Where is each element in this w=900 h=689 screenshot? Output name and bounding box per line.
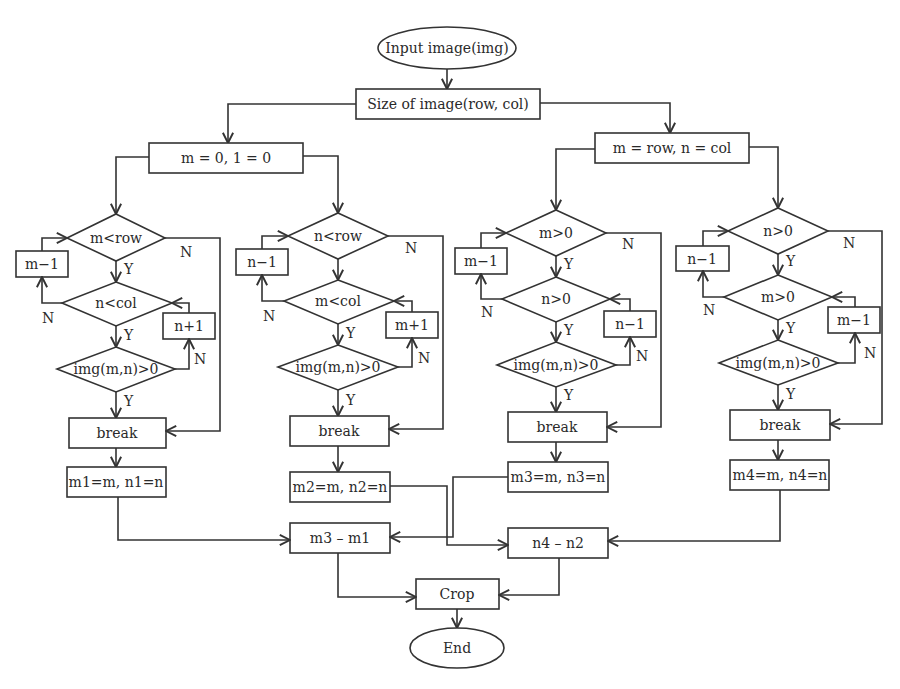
b2-cond3: img(m,n)>0: [295, 360, 380, 374]
b4-break: break: [760, 418, 801, 432]
no-marker: N: [418, 351, 430, 365]
b4-dec1: n−1: [687, 252, 717, 266]
b3-cond1: m>0: [539, 226, 573, 240]
b1-dec1: m−1: [25, 257, 59, 271]
no-marker: N: [843, 236, 855, 250]
crop-label: Crop: [440, 587, 475, 601]
no-marker: N: [636, 349, 648, 363]
no-marker: N: [622, 237, 634, 251]
b4-result: m4=m, n4=n: [733, 468, 828, 482]
b2-cond1: n<row: [314, 229, 362, 243]
yes-marker: Y: [786, 254, 795, 268]
init-left-label: m = 0, 1 = 0: [181, 151, 271, 165]
yes-marker: Y: [124, 394, 133, 408]
yes-marker: Y: [786, 387, 795, 401]
b4-cond3: img(m,n)>0: [735, 356, 820, 370]
b3-result: m3=m, n3=n: [511, 470, 606, 484]
init-right-label: m = row, n = col: [613, 141, 732, 155]
yes-marker: Y: [124, 262, 133, 276]
yes-marker: Y: [124, 328, 133, 342]
yes-marker: Y: [346, 393, 355, 407]
no-marker: N: [194, 352, 206, 366]
no-marker: N: [180, 245, 192, 259]
start-label: Input image(img): [385, 41, 509, 55]
b1-inc2: n+1: [174, 319, 204, 333]
yes-marker: Y: [786, 321, 795, 335]
b1-cond1: m<row: [90, 231, 142, 245]
b2-inc2: m+1: [395, 318, 429, 332]
b4-cond2: m>0: [761, 290, 795, 304]
no-marker: N: [864, 346, 876, 360]
b2-break: break: [319, 424, 360, 438]
size-label: Size of image(row, col): [367, 97, 529, 111]
b1-result: m1=m, n1=n: [69, 475, 164, 489]
b1-cond3: img(m,n)>0: [73, 362, 158, 376]
yes-marker: Y: [346, 326, 355, 340]
no-marker: N: [405, 241, 417, 255]
b2-dec1: n−1: [247, 255, 277, 269]
no-marker: N: [703, 303, 715, 317]
b1-break: break: [97, 426, 138, 440]
no-marker: N: [42, 311, 54, 325]
no-marker: N: [263, 309, 275, 323]
b3-break: break: [537, 420, 578, 434]
b3-dec1: m−1: [464, 254, 498, 268]
diff-m-label: m3 – m1: [310, 531, 370, 545]
yes-marker: Y: [564, 257, 573, 271]
b2-cond2: m<col: [315, 294, 361, 308]
no-marker: N: [481, 305, 493, 319]
b3-cond2: n>0: [541, 292, 571, 306]
yes-marker: Y: [564, 323, 573, 337]
diff-n-label: n4 – n2: [532, 536, 584, 550]
yes-marker: Y: [564, 388, 573, 402]
b4-inc2: m−1: [837, 313, 871, 327]
b3-inc2: n−1: [615, 317, 645, 331]
b1-cond2: n<col: [95, 296, 137, 310]
end-label: End: [443, 641, 471, 655]
b2-result: m2=m, n2=n: [293, 480, 388, 494]
b4-cond1: n>0: [763, 224, 793, 238]
b3-cond3: img(m,n)>0: [513, 358, 598, 372]
